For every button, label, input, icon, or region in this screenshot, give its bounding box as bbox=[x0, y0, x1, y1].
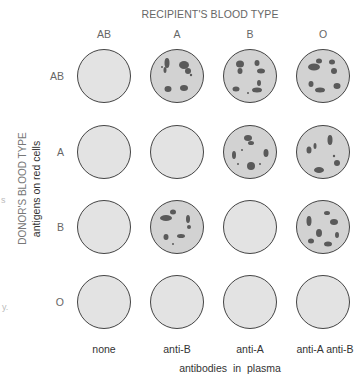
agglutination-clumps-icon bbox=[151, 50, 204, 103]
row-label-o: O bbox=[40, 296, 64, 308]
column-label-o: O bbox=[293, 28, 353, 40]
row-label-a: A bbox=[40, 146, 64, 158]
well-b-a-agglutinated bbox=[150, 200, 204, 254]
agglutination-clumps-icon bbox=[297, 126, 350, 179]
column-label-a: A bbox=[147, 28, 207, 40]
recipient-blood-type-title: RECIPIENT'S BLOOD TYPE bbox=[110, 8, 310, 20]
antibody-label-anti-a: anti-A bbox=[210, 343, 290, 355]
well-b-o-agglutinated bbox=[296, 200, 350, 254]
agglutination-clumps-icon bbox=[224, 50, 277, 103]
well-ab-a-agglutinated bbox=[150, 49, 204, 103]
column-label-ab: AB bbox=[74, 28, 134, 40]
well-o-ab bbox=[77, 275, 131, 329]
well-o-o bbox=[296, 275, 350, 329]
well-b-ab bbox=[77, 200, 131, 254]
well-a-a bbox=[150, 125, 204, 179]
well-a-ab bbox=[77, 125, 131, 179]
agglutination-clumps-icon bbox=[297, 201, 350, 254]
well-ab-o-agglutinated bbox=[296, 49, 350, 103]
column-label-b: B bbox=[220, 28, 280, 40]
well-b-b bbox=[223, 200, 277, 254]
antibodies-in-plasma-title: antibodies in plasma bbox=[150, 362, 310, 374]
donor-blood-type-title: DONOR'S BLOOD TYPE bbox=[17, 124, 28, 254]
row-label-ab: AB bbox=[40, 70, 64, 82]
agglutination-clumps-icon bbox=[224, 126, 277, 179]
antibody-label-anti-a-anti-b: anti-A anti-B bbox=[280, 343, 363, 355]
well-o-b bbox=[223, 275, 277, 329]
well-a-o-agglutinated bbox=[296, 125, 350, 179]
well-o-a bbox=[150, 275, 204, 329]
agglutination-clumps-icon bbox=[151, 201, 204, 254]
row-label-b: B bbox=[40, 221, 64, 233]
antibody-label-anti-b: anti-B bbox=[137, 343, 217, 355]
agglutination-clumps-icon bbox=[297, 50, 350, 103]
antibody-label-none: none bbox=[64, 343, 144, 355]
well-ab-ab bbox=[77, 49, 131, 103]
well-ab-b-agglutinated bbox=[223, 49, 277, 103]
edge-artifact: y. bbox=[2, 302, 8, 312]
edge-artifact: s bbox=[1, 195, 6, 205]
well-a-b-agglutinated bbox=[223, 125, 277, 179]
